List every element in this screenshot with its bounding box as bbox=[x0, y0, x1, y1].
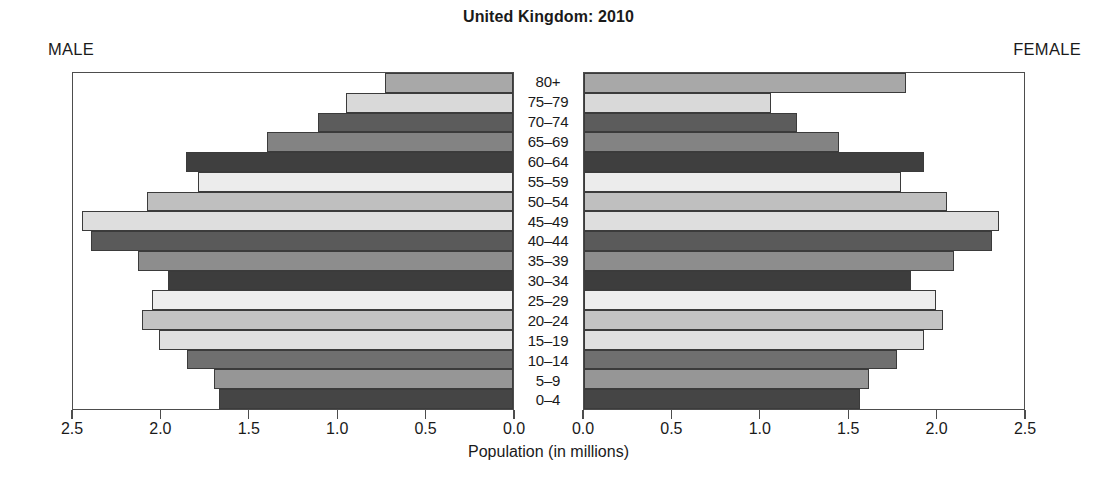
bar-row bbox=[584, 350, 1024, 370]
age-group-label: 55–59 bbox=[514, 171, 582, 191]
bar-female-30–34 bbox=[584, 271, 911, 291]
age-group-label: 50–54 bbox=[514, 191, 582, 211]
bar-female-40–44 bbox=[584, 231, 992, 251]
axis-tick-label: 0.0 bbox=[572, 420, 594, 438]
bar-female-20–24 bbox=[584, 310, 943, 330]
bar-row bbox=[73, 192, 513, 212]
bar-female-50–54 bbox=[584, 192, 947, 212]
bar-male-65–69 bbox=[267, 132, 513, 152]
bar-row bbox=[73, 231, 513, 251]
bar-male-35–39 bbox=[138, 251, 513, 271]
axis-tick-label: 1.0 bbox=[326, 420, 348, 438]
bar-row bbox=[73, 152, 513, 172]
bar-female-75–79 bbox=[584, 93, 771, 113]
axis-tick-label: 2.5 bbox=[1014, 420, 1036, 438]
bar-male-0–4 bbox=[219, 389, 513, 409]
bar-row bbox=[73, 290, 513, 310]
bar-row bbox=[584, 290, 1024, 310]
bar-row bbox=[584, 211, 1024, 231]
age-group-label: 65–69 bbox=[514, 132, 582, 152]
bar-row bbox=[584, 192, 1024, 212]
bar-male-70–74 bbox=[318, 113, 513, 133]
age-group-label: 5–9 bbox=[514, 370, 582, 390]
bar-row bbox=[73, 93, 513, 113]
bar-male-15–19 bbox=[159, 330, 513, 350]
bar-row bbox=[584, 93, 1024, 113]
axis-tick-label: 1.5 bbox=[837, 420, 859, 438]
axis-tick-label: 0.5 bbox=[414, 420, 436, 438]
age-group-label: 0–4 bbox=[514, 390, 582, 410]
axis-tick-label: 0.0 bbox=[503, 420, 525, 438]
axis-tick bbox=[248, 410, 249, 419]
age-group-label: 70–74 bbox=[514, 112, 582, 132]
age-group-label-column: 80+75–7970–7465–6960–6455–5950–5445–4940… bbox=[514, 72, 582, 410]
x-axis-title: Population (in millions) bbox=[0, 443, 1097, 461]
axis-tick bbox=[513, 410, 514, 419]
axis-tick bbox=[671, 410, 672, 419]
axis-tick bbox=[936, 410, 937, 419]
axis-tick-label: 2.5 bbox=[61, 420, 83, 438]
bar-male-30–34 bbox=[168, 271, 513, 291]
population-pyramid-chart: United Kingdom: 2010 MALE FEMALE 80+75–7… bbox=[0, 0, 1097, 483]
bar-male-25–29 bbox=[152, 290, 513, 310]
bar-row bbox=[73, 172, 513, 192]
bar-female-55–59 bbox=[584, 172, 901, 192]
axis-tick-label: 2.0 bbox=[925, 420, 947, 438]
bar-male-55–59 bbox=[198, 172, 513, 192]
female-bar-rows bbox=[584, 73, 1024, 409]
male-bar-rows bbox=[73, 73, 513, 409]
bar-female-80+ bbox=[584, 73, 906, 93]
bar-row bbox=[73, 310, 513, 330]
bar-male-60–64 bbox=[186, 152, 513, 172]
axis-tick bbox=[1024, 410, 1025, 419]
male-side-label: MALE bbox=[48, 40, 94, 59]
bar-female-5–9 bbox=[584, 369, 869, 389]
bar-female-0–4 bbox=[584, 389, 860, 409]
axis-tick bbox=[848, 410, 849, 419]
age-group-label: 45–49 bbox=[514, 211, 582, 231]
bar-row bbox=[584, 172, 1024, 192]
age-group-label: 15–19 bbox=[514, 330, 582, 350]
bar-male-75–79 bbox=[346, 93, 513, 113]
bar-row bbox=[584, 369, 1024, 389]
axis-tick-label: 0.5 bbox=[660, 420, 682, 438]
bar-row bbox=[73, 132, 513, 152]
axis-tick-label: 1.0 bbox=[749, 420, 771, 438]
axis-tick bbox=[582, 410, 583, 419]
bar-row bbox=[584, 330, 1024, 350]
bar-male-20–24 bbox=[142, 310, 513, 330]
bar-male-45–49 bbox=[82, 211, 513, 231]
bar-male-10–14 bbox=[187, 350, 513, 370]
bar-row bbox=[73, 389, 513, 409]
bar-female-35–39 bbox=[584, 251, 954, 271]
axis-tick-label: 2.0 bbox=[149, 420, 171, 438]
bar-male-40–44 bbox=[91, 231, 513, 251]
bar-row bbox=[584, 152, 1024, 172]
bar-row bbox=[73, 251, 513, 271]
age-group-label: 80+ bbox=[514, 72, 582, 92]
bar-female-45–49 bbox=[584, 211, 999, 231]
bar-row bbox=[73, 350, 513, 370]
axis-tick bbox=[71, 410, 72, 419]
bar-female-70–74 bbox=[584, 113, 797, 133]
bar-female-65–69 bbox=[584, 132, 839, 152]
bar-female-25–29 bbox=[584, 290, 936, 310]
bar-row bbox=[584, 251, 1024, 271]
bar-female-60–64 bbox=[584, 152, 924, 172]
bar-row bbox=[584, 310, 1024, 330]
bar-row bbox=[73, 211, 513, 231]
age-group-label: 40–44 bbox=[514, 231, 582, 251]
bar-row bbox=[584, 389, 1024, 409]
axis-tick bbox=[759, 410, 760, 419]
age-group-label: 30–34 bbox=[514, 271, 582, 291]
age-group-label: 60–64 bbox=[514, 152, 582, 172]
bar-male-5–9 bbox=[214, 369, 513, 389]
age-group-label: 25–29 bbox=[514, 291, 582, 311]
bar-male-80+ bbox=[385, 73, 513, 93]
female-plot-panel bbox=[583, 72, 1025, 410]
male-plot-panel bbox=[72, 72, 514, 410]
age-group-label: 20–24 bbox=[514, 311, 582, 331]
chart-title: United Kingdom: 2010 bbox=[0, 8, 1097, 26]
axis-tick bbox=[425, 410, 426, 419]
female-side-label: FEMALE bbox=[1013, 40, 1081, 59]
